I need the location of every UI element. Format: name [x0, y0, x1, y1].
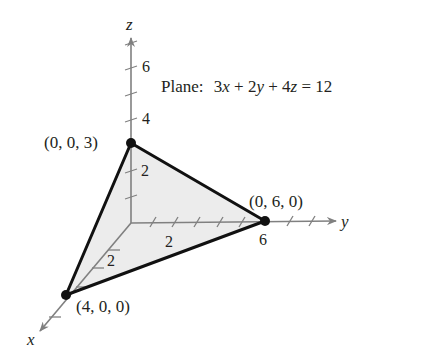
y-axis-label: y [339, 212, 349, 231]
y-tick-2: 2 [165, 233, 173, 250]
point-0-0-3 [126, 138, 136, 148]
plane-triangle-fill [66, 143, 265, 295]
point-label-0-0-3: (0, 0, 3) [44, 133, 98, 152]
plane-prefix: Plane: [161, 77, 204, 96]
z-tick-6: 6 [142, 58, 150, 75]
point-0-6-0 [260, 216, 270, 226]
point-label-4-0-0: (4, 0, 0) [76, 297, 130, 316]
x-axis-label: x [26, 330, 35, 349]
point-4-0-0 [61, 290, 71, 300]
y-tick-6: 6 [259, 231, 267, 248]
plane-equation: Plane: 3x + 2y + 4z = 12 [161, 77, 332, 96]
x-tick-2: 2 [107, 252, 115, 269]
z-tick-2: 2 [141, 162, 149, 179]
point-label-0-6-0: (0, 6, 0) [249, 192, 303, 211]
plane-diagram: z y x 6 4 2 2 6 2 (0, 0, 3) (0, 6, 0) (4… [0, 0, 423, 361]
z-tick-4: 4 [142, 110, 150, 127]
z-axis-label: z [125, 15, 133, 34]
